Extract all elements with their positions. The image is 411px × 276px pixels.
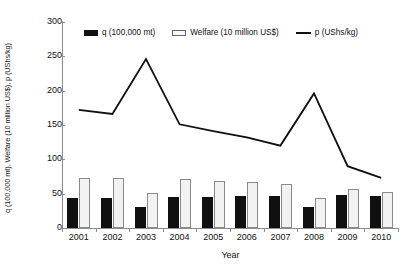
x-tick-label: 2010 <box>361 232 401 242</box>
plot-area <box>62 22 398 228</box>
legend-item-welfare: Welfare (10 million US$) <box>172 28 279 38</box>
line-series-p <box>62 22 398 228</box>
legend-item-q: q (100,000 mt) <box>84 28 155 38</box>
y-tick-label: 250 <box>22 51 62 60</box>
legend-label-p: p (UShs/kg) <box>315 28 358 38</box>
line-marker-icon <box>296 32 311 34</box>
y-tick-label: 50 <box>22 189 62 198</box>
open-square-icon <box>172 30 186 36</box>
x-tick-mark <box>62 229 63 232</box>
y-tick-label: 300 <box>22 17 62 26</box>
x-axis-title: Year <box>62 250 399 261</box>
chart-figure: q (100,000 mt), Welfare (10 million US$)… <box>0 0 411 276</box>
y-tick-label: 200 <box>22 86 62 95</box>
y-tick-label: 0 <box>22 223 62 232</box>
legend-label-welfare: Welfare (10 million US$) <box>190 28 279 38</box>
legend-item-p: p (UShs/kg) <box>296 28 358 38</box>
legend-label-q: q (100,000 mt) <box>102 28 155 38</box>
y-tick-label: 150 <box>22 120 62 129</box>
filled-square-icon <box>84 30 98 36</box>
y-axis-title: q (100,000 mt), Welfare (10 million US$)… <box>2 8 14 248</box>
x-tick-mark <box>398 229 399 232</box>
y-tick-label: 100 <box>22 154 62 163</box>
chart-legend: q (100,000 mt) Welfare (10 million US$) … <box>84 28 358 38</box>
